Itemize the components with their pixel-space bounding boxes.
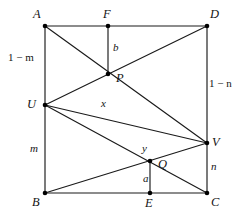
measure-label-a: a xyxy=(143,173,149,184)
vertex-dot-V xyxy=(205,141,210,146)
vertex-label-D: D xyxy=(210,8,219,21)
cevian-A-to-V xyxy=(45,26,207,143)
vertex-dot-A xyxy=(43,24,48,29)
vertex-dot-B xyxy=(43,191,48,196)
measure-label-x: x xyxy=(101,98,106,109)
vertex-label-U: U xyxy=(27,98,36,111)
cevian-U-to-V xyxy=(45,105,207,143)
geometry-figure: A F D P U V Q B E C 1 − m m 1 − n n b x … xyxy=(0,0,242,218)
vertex-dot-E xyxy=(148,191,153,196)
vertex-label-V: V xyxy=(212,136,220,149)
vertex-dot-F xyxy=(106,24,111,29)
cevian-U-to-C xyxy=(45,105,207,193)
measure-label-n: n xyxy=(211,161,217,172)
vertex-dot-Q xyxy=(148,159,153,164)
figure-edges xyxy=(45,26,207,193)
cevian-B-to-V xyxy=(45,143,207,193)
vertex-label-B: B xyxy=(32,196,40,209)
measure-label-one-minus-n: 1 − n xyxy=(209,78,232,89)
figure-vertex-dots xyxy=(43,24,210,196)
vertex-label-E: E xyxy=(145,197,153,210)
vertex-dot-D xyxy=(205,24,210,29)
vertex-label-C: C xyxy=(211,196,219,209)
diagram-canvas xyxy=(0,0,242,218)
measure-label-m: m xyxy=(30,143,38,154)
vertex-label-A: A xyxy=(33,8,41,21)
vertex-label-P: P xyxy=(116,72,124,85)
cevian-U-to-D xyxy=(45,26,207,105)
measure-label-b: b xyxy=(113,42,119,53)
vertex-dot-P xyxy=(106,72,111,77)
vertex-label-F: F xyxy=(103,8,111,21)
vertex-label-Q: Q xyxy=(158,158,167,171)
measure-label-y: y xyxy=(142,143,147,154)
vertex-dot-U xyxy=(43,103,48,108)
vertex-dot-C xyxy=(205,191,210,196)
measure-label-one-minus-m: 1 − m xyxy=(8,52,34,63)
